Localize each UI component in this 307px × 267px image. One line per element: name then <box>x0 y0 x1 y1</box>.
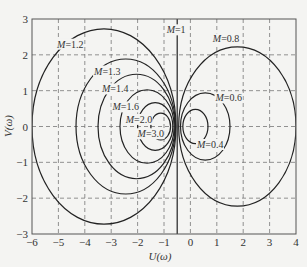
x-tick-label: 1 <box>214 236 220 248</box>
x-tick-label: −3 <box>105 236 117 248</box>
y-tick-label: 1 <box>23 85 29 97</box>
y-tick-label: −2 <box>16 192 28 204</box>
curve-label: M=0.6 <box>214 92 241 103</box>
y-tick-label: −1 <box>16 156 28 168</box>
curve-label: M=0.4 <box>196 139 223 150</box>
curve-label: M=1.2 <box>56 39 83 50</box>
curve-labels: M=1.2M=1.3M=1.4M=1.6M=2.0M=3.0M=1M=0.8M=… <box>56 24 242 150</box>
y-tick-label: −3 <box>16 228 28 240</box>
m-circles-chart: −6−5−4−3−2−101234−3−2−10123 M=1.2M=1.3M=… <box>0 0 307 267</box>
y-axis-title: V(ω) <box>2 115 15 137</box>
curve-label: M=0.8 <box>212 33 239 44</box>
x-tick-label: −4 <box>79 236 91 248</box>
curve-label: M=2.0 <box>125 114 152 125</box>
y-tick-label: 3 <box>23 13 29 25</box>
x-axis-title: U(ω) <box>148 250 171 263</box>
y-tick-label: 0 <box>23 121 29 133</box>
x-tick-label: 0 <box>188 236 194 248</box>
x-tick-label: −1 <box>158 236 170 248</box>
x-tick-label: −2 <box>132 236 144 248</box>
curve-label: M=1.3 <box>93 66 120 77</box>
x-tick-label: −5 <box>53 236 65 248</box>
curve-label: M=1 <box>166 24 186 35</box>
curve-label: M=1.4 <box>101 83 128 94</box>
curve-label: M=1.6 <box>112 101 139 112</box>
x-tick-label: 4 <box>293 236 299 248</box>
chart-svg: −6−5−4−3−2−101234−3−2−10123 M=1.2M=1.3M=… <box>0 0 307 267</box>
x-tick-label: 2 <box>240 236 246 248</box>
curve-label: M=3.0 <box>137 128 164 139</box>
y-tick-label: 2 <box>23 49 29 61</box>
x-tick-label: 3 <box>267 236 273 248</box>
